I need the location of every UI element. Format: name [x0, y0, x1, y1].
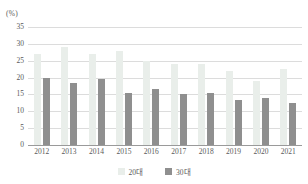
bar: [34, 54, 41, 145]
x-axis-tick-label: 2017: [165, 147, 192, 156]
legend-label: 30대: [176, 166, 191, 177]
legend-swatch-icon: [165, 168, 172, 175]
x-axis-tick-label: 2014: [83, 147, 110, 156]
bar: [61, 47, 68, 145]
x-axis-tick-label: 2020: [247, 147, 274, 156]
y-axis-tick-label: 25: [0, 57, 24, 65]
y-axis-tick-label: 10: [0, 108, 24, 116]
legend-item[interactable]: 20대: [118, 166, 144, 177]
x-axis-tick-label: 2018: [192, 147, 219, 156]
axis-baseline: [28, 145, 302, 146]
bar: [125, 93, 132, 145]
x-axis: 2012201320142015201620172018201920202021: [28, 147, 302, 156]
y-axis-unit-label: (%): [6, 9, 18, 18]
bar-group: [275, 27, 302, 145]
bar: [43, 78, 50, 145]
bar-group: [192, 27, 219, 145]
x-axis-tick-label: 2016: [138, 147, 165, 156]
plot-area: [28, 27, 302, 145]
y-axis-tick-label: 0: [0, 141, 24, 149]
bar-group: [110, 27, 137, 145]
chart-legend: 20대30대: [0, 166, 308, 177]
bar: [226, 71, 233, 145]
y-axis: 05101520253035: [0, 27, 24, 145]
y-axis-tick-label: 15: [0, 91, 24, 99]
bar-group: [247, 27, 274, 145]
bar: [262, 98, 269, 145]
bar: [171, 64, 178, 145]
bar-group: [55, 27, 82, 145]
bar: [180, 94, 187, 145]
bar: [89, 54, 96, 145]
bar-groups: [28, 27, 302, 145]
legend-label: 20대: [129, 166, 144, 177]
x-axis-tick-label: 2021: [275, 147, 302, 156]
x-axis-tick-label: 2012: [28, 147, 55, 156]
bar: [253, 81, 260, 145]
bar-group: [165, 27, 192, 145]
bar: [116, 51, 123, 145]
bar: [207, 93, 214, 145]
legend-swatch-icon: [118, 168, 125, 175]
bar: [70, 83, 77, 145]
x-axis-tick-label: 2013: [55, 147, 82, 156]
bar: [198, 64, 205, 145]
y-axis-tick-label: 30: [0, 40, 24, 48]
y-axis-tick-label: 35: [0, 23, 24, 31]
legend-item[interactable]: 30대: [165, 166, 191, 177]
bar: [152, 89, 159, 145]
x-axis-tick-label: 2019: [220, 147, 247, 156]
bar-group: [138, 27, 165, 145]
x-axis-tick-label: 2015: [110, 147, 137, 156]
bar: [289, 103, 296, 145]
y-axis-tick-label: 20: [0, 74, 24, 82]
y-axis-tick-label: 5: [0, 124, 24, 132]
bar: [98, 79, 105, 145]
bar: [280, 69, 287, 145]
bar-chart: (%) 05101520253035 201220132014201520162…: [0, 0, 308, 184]
bar-group: [83, 27, 110, 145]
bar-group: [28, 27, 55, 145]
bar-group: [220, 27, 247, 145]
bar: [143, 61, 150, 145]
bar: [235, 100, 242, 146]
